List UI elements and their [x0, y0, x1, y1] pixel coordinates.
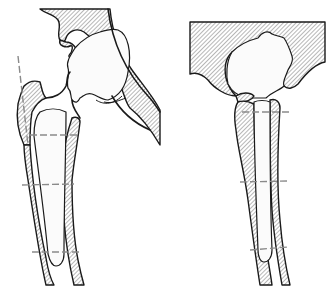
right-medial-cortex [270, 99, 290, 285]
left-panel [17, 9, 160, 285]
left-femoral-head [67, 29, 129, 102]
right-panel [190, 22, 325, 285]
left-femoral-neck [46, 72, 70, 98]
prosthesis-diagram [0, 0, 330, 291]
